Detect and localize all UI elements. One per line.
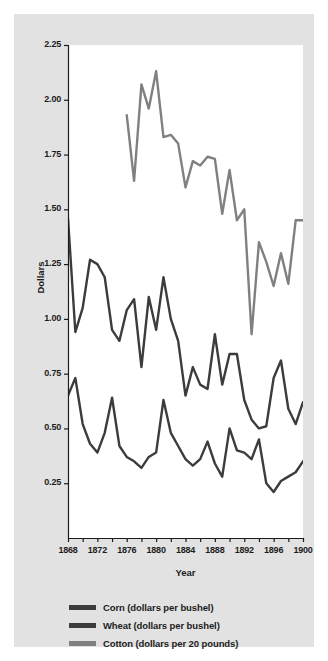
legend-item-wheat: Wheat (dollars per bushel)	[69, 617, 309, 633]
y-tick-label: 0.75	[14, 368, 61, 378]
legend-label-wheat: Wheat (dollars per bushel)	[103, 620, 220, 631]
y-tick-label: 2.00	[14, 94, 61, 104]
y-tick-label: 2.25	[14, 39, 61, 49]
x-tick-label: 1900	[285, 545, 321, 555]
legend-swatch-corn	[69, 605, 96, 610]
y-tick-label: 0.25	[14, 477, 61, 487]
series-line-wheat	[68, 218, 303, 428]
legend-label-corn: Corn (dollars per bushel)	[103, 602, 213, 613]
figure-panel: 0.250.500.751.001.251.501.752.002.25 186…	[14, 14, 314, 647]
legend-label-cotton: Cotton (dollars per 20 pounds)	[103, 638, 238, 649]
legend-swatch-wheat	[69, 623, 96, 628]
legend-swatch-cotton	[69, 641, 96, 646]
y-tick-label: 1.50	[14, 203, 61, 213]
chart-svg	[68, 45, 303, 538]
legend-item-corn: Corn (dollars per bushel)	[69, 599, 309, 615]
chart-legend: Corn (dollars per bushel) Wheat (dollars…	[69, 599, 309, 653]
y-tick-label: 1.75	[14, 149, 61, 159]
y-axis-label: Dollars	[35, 238, 46, 318]
legend-item-cotton: Cotton (dollars per 20 pounds)	[69, 635, 309, 651]
x-axis-label: Year	[68, 567, 303, 578]
series-line-cotton	[127, 71, 303, 334]
plot-area	[68, 45, 303, 538]
y-tick-label: 0.50	[14, 422, 61, 432]
